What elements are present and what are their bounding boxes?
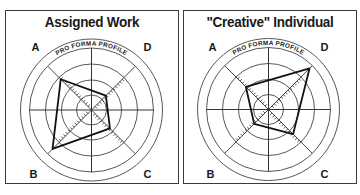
hatch-tick (75, 123, 77, 125)
quadrant-label-d: D (321, 41, 329, 53)
hatch-tick (73, 125, 75, 127)
hatch-tick (242, 81, 244, 83)
hatch-tick (272, 106, 274, 108)
hatch-tick (77, 121, 79, 123)
hatch-tick (95, 116, 97, 118)
hatch-tick (288, 90, 290, 92)
hatch-tick (236, 138, 238, 140)
quadrant-label-c: C (144, 168, 152, 180)
quadrant-label-c: C (321, 168, 329, 180)
hatch-tick (86, 112, 88, 114)
hatch-tick (245, 84, 247, 86)
hatch-tick (118, 138, 120, 140)
hatch-tick (111, 91, 113, 93)
hatch-tick (261, 113, 263, 115)
hatch-tick (295, 138, 297, 140)
hatch-tick (115, 86, 117, 88)
quadrant-label-a: A (32, 41, 40, 53)
hatch-tick (295, 83, 297, 85)
radar-chart-creative-individual: ADCBPRO FORMA PROFILE (198, 39, 340, 181)
hatch-tick (68, 84, 70, 86)
hatch-tick (70, 128, 72, 130)
hatch-tick (93, 114, 95, 116)
hatch-tick (254, 93, 256, 95)
quadrant-label-b: B (30, 168, 38, 180)
hatch-tick (263, 111, 265, 113)
hatch-tick (270, 113, 272, 115)
hatch-tick (95, 106, 97, 108)
hatch-tick (277, 101, 279, 103)
hatch-tick (238, 77, 240, 79)
hatch-tick (114, 134, 116, 136)
hatch-tick (120, 141, 122, 143)
hatch-tick (286, 129, 288, 131)
radar-chart-assigned-work: ADCBPRO FORMA PROFILE (21, 39, 163, 181)
hatch-tick (120, 82, 122, 84)
hatch-tick (251, 91, 253, 93)
hatch-tick (259, 116, 261, 118)
hatch-tick (286, 92, 288, 94)
hatch-tick (74, 91, 76, 93)
hatch-tick (249, 88, 251, 90)
hatch-tick (274, 104, 276, 106)
hatch-tick (63, 134, 65, 136)
hatch-tick (247, 127, 249, 129)
hatch-tick (109, 129, 111, 131)
hatch-tick (59, 139, 61, 141)
quadrant-label-a: A (209, 41, 217, 53)
hatch-tick (265, 104, 267, 106)
hatch-tick (279, 122, 281, 124)
hatch-tick (238, 136, 240, 138)
hatch-tick (82, 116, 84, 118)
hatch-tick (293, 136, 295, 138)
hatch-tick (275, 118, 277, 120)
hatch-tick (282, 124, 284, 126)
hatch-tick (66, 132, 68, 134)
hatch-tick (97, 104, 99, 106)
radar-charts: ADCBPRO FORMA PROFILE ADCBPRO FORMA PROF… (0, 0, 360, 195)
hatch-tick (281, 97, 283, 99)
hatch-tick (263, 102, 265, 104)
hatch-tick (109, 93, 111, 95)
hatch-tick (243, 132, 245, 134)
hatch-tick (297, 81, 299, 83)
hatch-tick (102, 123, 104, 125)
hatch-tick (98, 118, 100, 120)
hatch-tick (116, 136, 118, 138)
hatch-tick (105, 125, 107, 127)
hatch-tick (256, 95, 258, 97)
hatch-tick (292, 86, 294, 88)
hatch-tick (118, 84, 120, 86)
quadrant-label-b: B (207, 168, 215, 180)
hatch-tick (284, 127, 286, 129)
hatch-tick (88, 105, 90, 107)
hatch-tick (240, 134, 242, 136)
hatch-tick (122, 79, 124, 81)
hatch-tick (272, 115, 274, 117)
hatch-tick (86, 102, 88, 104)
hatch-tick (79, 96, 81, 98)
hatch-tick (84, 114, 86, 116)
hatch-tick (250, 125, 252, 127)
hatch-tick (100, 102, 102, 104)
quadrant-label-d: D (144, 41, 152, 53)
hatch-tick (72, 89, 74, 91)
hatch-tick (297, 140, 299, 142)
hatch-tick (77, 93, 79, 95)
hatch-tick (260, 100, 262, 102)
hatch-tick (299, 79, 301, 81)
hatch-tick (83, 100, 85, 102)
hatch-tick (61, 137, 63, 139)
hatch-tick (240, 79, 242, 81)
hatch-tick (283, 95, 285, 97)
